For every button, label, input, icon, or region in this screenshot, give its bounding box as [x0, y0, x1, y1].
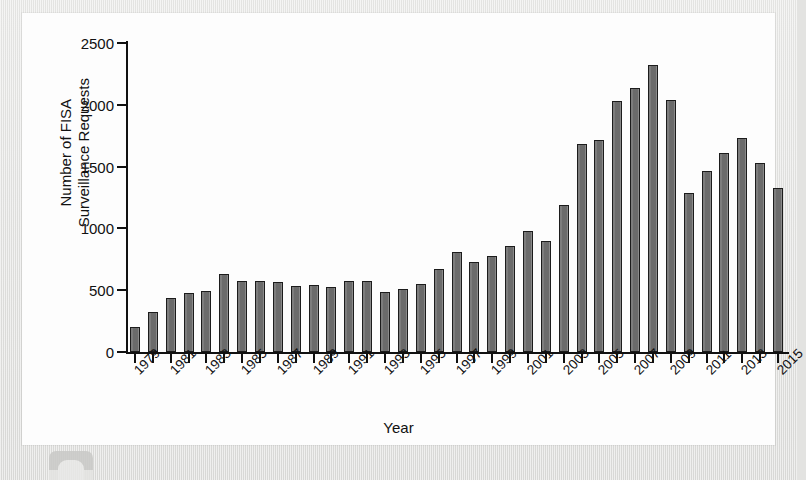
x-axis-tick [223, 354, 225, 363]
bar[interactable] [505, 246, 515, 352]
x-axis-tick [402, 354, 404, 363]
x-axis-tick [688, 354, 690, 363]
bar[interactable] [523, 231, 533, 352]
bar[interactable] [755, 163, 765, 352]
x-axis-tick [152, 354, 154, 363]
x-axis-tick [759, 354, 761, 363]
x-axis-tick [295, 354, 297, 363]
y-axis-tick-labels: 05001000150020002500 [22, 43, 114, 352]
bar[interactable] [452, 252, 462, 352]
x-axis-tick [188, 354, 190, 363]
bar[interactable] [702, 171, 712, 352]
x-axis-tick [473, 354, 475, 363]
bar[interactable] [326, 287, 336, 352]
bar[interactable] [612, 101, 622, 352]
bar[interactable] [541, 241, 551, 352]
bar[interactable] [130, 327, 140, 352]
x-axis-tick [581, 354, 583, 363]
x-axis-tick [330, 354, 332, 363]
chart-card: Number of FISA Surveillance Requests 050… [22, 13, 775, 445]
bar[interactable] [237, 281, 247, 352]
y-axis-tick-label: 2000 [81, 96, 114, 113]
y-axis-tick [117, 166, 126, 168]
bar[interactable] [362, 281, 372, 352]
y-axis-tick [117, 104, 126, 106]
bar[interactable] [344, 281, 354, 352]
x-axis-tick [545, 354, 547, 363]
y-axis-tick [117, 227, 126, 229]
bar[interactable] [166, 298, 176, 352]
bar[interactable] [648, 65, 658, 352]
y-axis-tick-label: 1000 [81, 220, 114, 237]
plot-area [126, 43, 787, 352]
y-axis-tick-label: 2500 [81, 35, 114, 52]
y-axis-tick-label: 1500 [81, 158, 114, 175]
bar[interactable] [666, 100, 676, 352]
x-axis-title: Year [22, 419, 775, 436]
bar[interactable] [291, 286, 301, 352]
bar[interactable] [594, 140, 604, 352]
bar[interactable] [416, 284, 426, 352]
y-axis-tick [117, 351, 126, 353]
y-axis-tick-label: 500 [89, 282, 114, 299]
x-axis-tick [366, 354, 368, 363]
bar[interactable] [773, 188, 783, 352]
y-axis-tick [117, 289, 126, 291]
bar[interactable] [380, 292, 390, 352]
bar[interactable] [577, 144, 587, 352]
bar[interactable] [255, 281, 265, 352]
y-axis-tick [117, 42, 126, 44]
bar[interactable] [630, 88, 640, 352]
bar[interactable] [559, 205, 569, 352]
bar[interactable] [719, 153, 729, 352]
scan-edge-artifact [49, 451, 93, 480]
bar[interactable] [487, 256, 497, 352]
bar[interactable] [434, 269, 444, 352]
y-axis-tick-label: 0 [106, 344, 114, 361]
bar[interactable] [201, 291, 211, 352]
x-axis-tick [509, 354, 511, 363]
bar[interactable] [737, 138, 747, 352]
bar[interactable] [469, 262, 479, 352]
x-axis-tick [259, 354, 261, 363]
bar[interactable] [398, 289, 408, 352]
bar[interactable] [184, 293, 194, 352]
x-axis-tick [723, 354, 725, 363]
x-axis-tick [438, 354, 440, 363]
bar[interactable] [273, 282, 283, 352]
fisa-surveillance-requests-bar-chart: Number of FISA Surveillance Requests 050… [22, 13, 775, 445]
x-axis-tick [652, 354, 654, 363]
bar[interactable] [684, 193, 694, 352]
bar[interactable] [309, 285, 319, 352]
bar[interactable] [219, 274, 229, 352]
x-axis-tick [616, 354, 618, 363]
